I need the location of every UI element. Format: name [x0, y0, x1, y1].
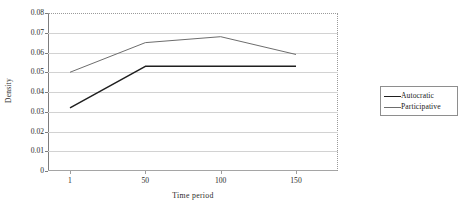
y-tick-label: 0.01: [16, 147, 44, 155]
x-axis-title: Time period: [48, 191, 338, 200]
x-tick-label: 100: [201, 176, 241, 186]
x-tick-mark: [70, 171, 71, 174]
y-tick-label: 0: [16, 167, 44, 175]
x-tick-label: 50: [125, 176, 165, 186]
legend-swatch-icon: [384, 103, 401, 111]
x-axis-tick-labels: 150100150: [48, 176, 338, 188]
x-tick-mark: [145, 171, 146, 174]
x-tick-mark: [221, 171, 222, 174]
legend-label: Participative: [401, 102, 441, 111]
y-tick-label: 0.05: [16, 68, 44, 76]
y-tick-mark: [45, 171, 48, 172]
legend-item[interactable]: Autocratic: [384, 90, 455, 101]
y-axis-title: Density: [4, 61, 13, 121]
x-tick-label: 150: [276, 176, 316, 186]
y-axis-tick-labels: 0.080.070.060.050.040.030.020.010: [16, 13, 44, 171]
series-lines: [48, 13, 338, 171]
legend-item[interactable]: Participative: [384, 101, 455, 112]
y-tick-label: 0.04: [16, 88, 44, 96]
x-tick-mark: [296, 171, 297, 174]
chart-legend: AutocraticParticipative: [380, 86, 458, 116]
y-tick-label: 0.06: [16, 49, 44, 57]
x-tick-label: 1: [50, 176, 90, 186]
y-tick-label: 0.03: [16, 108, 44, 116]
series-line-autocratic: [70, 66, 296, 107]
y-tick-label: 0.08: [16, 9, 44, 17]
y-tick-label: 0.02: [16, 128, 44, 136]
y-tick-label: 0.07: [16, 29, 44, 37]
legend-swatch-icon: [384, 92, 401, 100]
legend-label: Autocratic: [401, 91, 434, 100]
line-chart-figure: Density 0.080.070.060.050.040.030.020.01…: [0, 0, 460, 222]
plot-area: [48, 13, 338, 171]
